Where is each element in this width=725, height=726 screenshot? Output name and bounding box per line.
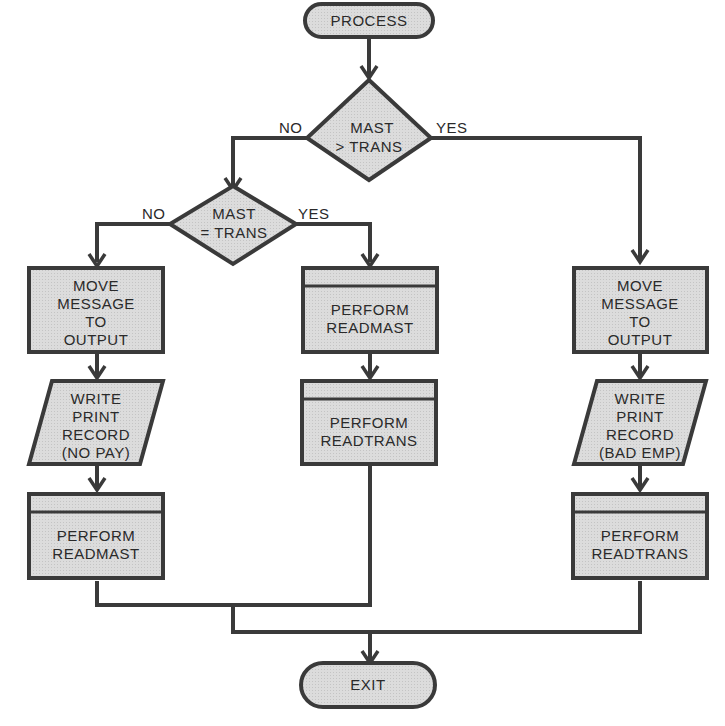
node-left-write-print-record: WRITE PRINT RECORD (NO PAY): [29, 381, 163, 464]
decision1-line1: MAST: [350, 119, 394, 136]
left-move-line: MESSAGE: [57, 295, 135, 312]
decision1-yes-label: YES: [436, 119, 468, 136]
left-write-line: (NO PAY): [62, 444, 130, 461]
decision2-line1: MAST: [212, 205, 256, 222]
mid-perform1-line: READMAST: [326, 319, 413, 336]
node-mid-perform-readtrans: PERFORM READTRANS: [302, 381, 436, 464]
connector-decision2-no: [97, 224, 170, 262]
decision2-no-label: NO: [142, 205, 166, 222]
node-left-perform-readmast: PERFORM READMAST: [29, 494, 163, 578]
node-start-process: PROCESS: [305, 4, 433, 37]
left-write-line: RECORD: [62, 426, 130, 443]
left-perform-line: PERFORM: [57, 527, 136, 544]
left-move-line: OUTPUT: [64, 331, 129, 348]
left-move-line: MOVE: [73, 277, 119, 294]
node-left-move-message: MOVE MESSAGE TO OUTPUT: [29, 268, 163, 352]
node-mid-perform-readmast: PERFORM READMAST: [303, 268, 437, 352]
connector-decision2-yes: [296, 224, 370, 262]
right-move-line: MESSAGE: [601, 295, 679, 312]
connector-decision1-no: [233, 138, 307, 190]
decision2-yes-label: YES: [298, 205, 330, 222]
right-perform-line: READTRANS: [591, 545, 688, 562]
connector-decision1-yes: [431, 138, 640, 262]
node-right-write-print-record: WRITE PRINT RECORD (BAD EMP): [574, 381, 706, 464]
right-move-line: OUTPUT: [608, 331, 673, 348]
left-write-line: PRINT: [72, 408, 120, 425]
start-label: PROCESS: [331, 12, 408, 29]
left-perform-line: READMAST: [52, 545, 139, 562]
left-move-line: TO: [85, 313, 107, 330]
right-write-line: WRITE: [615, 390, 666, 407]
node-end-exit: EXIT: [301, 663, 435, 707]
right-write-line: RECORD: [606, 426, 674, 443]
node-decision-mast-gt-trans: MAST > TRANS NO YES: [279, 80, 468, 180]
decision1-no-label: NO: [279, 119, 303, 136]
mid-perform2-line: PERFORM: [330, 414, 409, 431]
node-right-perform-readtrans: PERFORM READTRANS: [573, 494, 707, 578]
decision2-line2: = TRANS: [201, 224, 268, 241]
end-label: EXIT: [350, 676, 385, 693]
right-move-line: TO: [629, 313, 651, 330]
mid-perform1-line: PERFORM: [331, 301, 410, 318]
right-move-line: MOVE: [617, 277, 663, 294]
node-right-move-message: MOVE MESSAGE TO OUTPUT: [574, 268, 707, 352]
right-write-line: PRINT: [616, 408, 664, 425]
flowchart: PROCESS MAST > TRANS NO YES MAST = TRANS…: [0, 0, 725, 726]
right-write-line: (BAD EMP): [599, 444, 681, 461]
decision1-line2: > TRANS: [336, 138, 403, 155]
right-perform-line: PERFORM: [601, 527, 680, 544]
mid-perform2-line: READTRANS: [320, 432, 417, 449]
left-write-line: WRITE: [71, 390, 122, 407]
